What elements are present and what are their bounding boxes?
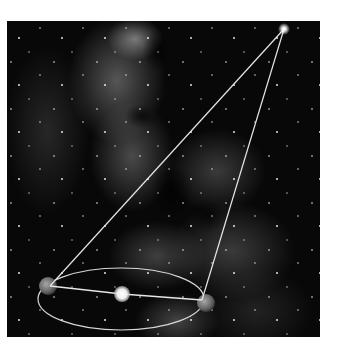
sightline-right [202,29,284,300]
earth-right [197,294,215,312]
sightline-left [50,29,284,286]
parallax-diagram [0,0,341,356]
distant-star [282,27,286,31]
baseline-right [122,294,202,300]
baseline-left [50,286,122,294]
sun [114,286,130,302]
